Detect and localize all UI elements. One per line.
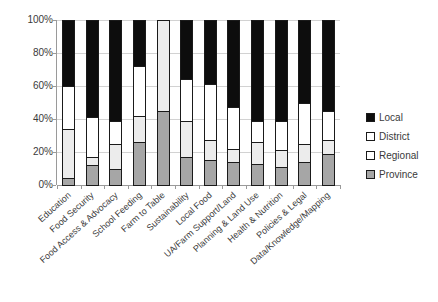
- bar-segment-regional: [157, 20, 170, 112]
- x-axis-tick-mark: [57, 185, 58, 189]
- y-axis-tick-label: 80%: [3, 48, 53, 58]
- x-axis-tick-mark: [269, 185, 270, 189]
- bar-segment-local: [275, 20, 288, 122]
- bar-segment-district: [251, 121, 264, 143]
- x-axis-tick-mark: [199, 185, 200, 189]
- bar-group: [62, 20, 75, 185]
- legend-swatch-icon: [366, 170, 375, 179]
- bar-segment-district: [180, 79, 193, 121]
- legend-item[interactable]: Province: [366, 165, 438, 184]
- y-axis-tick-label: 20%: [3, 147, 53, 157]
- y-axis-tick-label: 60%: [3, 81, 53, 91]
- legend-label: District: [379, 132, 410, 142]
- y-axis-tick-label: 0%: [3, 180, 53, 190]
- x-axis-tick-mark: [293, 185, 294, 189]
- bar-segment-local: [298, 20, 311, 104]
- bar-segment-local: [322, 20, 335, 112]
- bar-segment-local: [251, 20, 264, 122]
- bar-segment-district: [322, 111, 335, 142]
- legend-swatch-icon: [366, 132, 375, 141]
- legend-item[interactable]: Regional: [366, 146, 438, 165]
- chart-legend: LocalDistrictRegionalProvince: [366, 108, 438, 184]
- bar-segment-district: [62, 86, 75, 130]
- legend-label: Local: [379, 113, 403, 123]
- x-axis-tick-mark: [246, 185, 247, 189]
- bar-segment-local: [133, 20, 146, 67]
- x-axis-tick-mark: [151, 185, 152, 189]
- x-axis-tick-mark: [175, 185, 176, 189]
- legend-swatch-icon: [366, 151, 375, 160]
- y-axis-tick-mark: [52, 185, 56, 186]
- legend-swatch-icon: [366, 113, 375, 122]
- x-axis-tick-mark: [340, 185, 341, 189]
- stacked-bar-chart: 0%20%40%60%80%100% EducationFood Securit…: [0, 0, 438, 302]
- bar-segment-local: [62, 20, 75, 87]
- bar-segment-district: [109, 121, 122, 145]
- bar-segment-local: [204, 20, 217, 85]
- x-axis-tick-mark: [104, 185, 105, 189]
- bar-segment-regional: [62, 129, 75, 180]
- x-axis-tick-mark: [128, 185, 129, 189]
- y-axis-tick-label: 100%: [3, 15, 53, 25]
- x-axis-tick-mark: [222, 185, 223, 189]
- bar-group: [86, 20, 99, 185]
- bar-segment-local: [227, 20, 240, 108]
- bar-segment-local: [86, 20, 99, 118]
- legend-item[interactable]: Local: [366, 108, 438, 127]
- legend-item[interactable]: District: [366, 127, 438, 146]
- legend-label: Regional: [379, 151, 418, 161]
- bar-segment-district: [204, 84, 217, 141]
- bar-segment-district: [227, 107, 240, 149]
- y-axis-tick-label: 40%: [3, 114, 53, 124]
- legend-label: Province: [379, 170, 418, 180]
- bar-segment-district: [133, 66, 146, 117]
- bar-segment-regional: [133, 116, 146, 143]
- bar-segment-district: [86, 117, 99, 158]
- bar-segment-local: [180, 20, 193, 80]
- bar-segment-local: [109, 20, 122, 122]
- x-axis-tick-mark: [316, 185, 317, 189]
- x-axis-tick-mark: [81, 185, 82, 189]
